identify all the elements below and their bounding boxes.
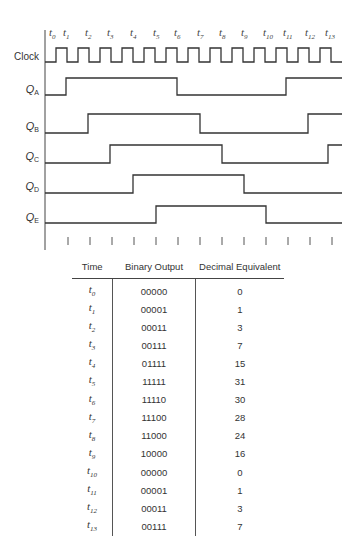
- time-label: t2: [85, 26, 92, 41]
- signal-label-clock: Clock: [14, 51, 40, 62]
- time-label: t8: [219, 26, 226, 41]
- table-row: t51111131: [72, 373, 284, 391]
- time-label: t5: [153, 26, 160, 41]
- waveform-qb: [45, 114, 342, 133]
- time-label: t13: [325, 26, 336, 41]
- time-label: t7: [197, 26, 204, 41]
- time-index: 8: [92, 435, 96, 443]
- binary-cell: 00000: [113, 279, 196, 302]
- table-row: t3001117: [72, 337, 284, 355]
- time-index: 5: [92, 381, 96, 389]
- time-index: 9: [92, 453, 96, 461]
- signal-labels: ClockQAQBQCQDQE: [14, 51, 40, 224]
- binary-cell: 00011: [113, 319, 196, 337]
- decimal-cell: 0: [196, 279, 285, 302]
- table-row: t1000011: [72, 301, 284, 319]
- binary-cell: 00111: [113, 518, 196, 536]
- time-index: 7: [92, 417, 96, 425]
- time-cell: t0: [72, 279, 113, 302]
- waveform-clock: [45, 48, 342, 62]
- binary-cell: 01111: [113, 355, 196, 373]
- decimal-cell: 3: [196, 500, 285, 518]
- table-row: t91000016: [72, 446, 284, 464]
- table-row: t12000113: [72, 500, 284, 518]
- table-row: t71110028: [72, 410, 284, 428]
- table-row: t61111030: [72, 392, 284, 410]
- binary-cell: 00011: [113, 500, 196, 518]
- time-index: 3: [92, 344, 96, 352]
- decimal-cell: 31: [196, 373, 285, 391]
- time-labels: t0t1t2t3t4t5t6t7t8t9t10t11t12t13: [49, 26, 336, 41]
- decimal-cell: 0: [196, 464, 285, 482]
- time-cell: t10: [72, 464, 113, 482]
- time-label: t9: [241, 26, 248, 41]
- table-row: t10000000: [72, 464, 284, 482]
- table-row: t11000011: [72, 482, 284, 500]
- time-label: t1: [63, 26, 70, 41]
- timing-diagram: t0t1t2t3t4t5t6t7t8t9t10t11t12t13 ClockQA…: [0, 0, 357, 258]
- binary-cell: 11111: [113, 373, 196, 391]
- time-label: t0: [49, 26, 56, 41]
- time-cell: t2: [72, 319, 113, 337]
- time-index: 10: [90, 471, 97, 479]
- time-cell: t5: [72, 373, 113, 391]
- time-label: t3: [107, 26, 114, 41]
- time-ticks: [68, 237, 332, 245]
- time-label: t10: [263, 26, 274, 41]
- binary-cell: 00001: [113, 482, 196, 500]
- binary-cell: 11000: [113, 428, 196, 446]
- table-row: t2000113: [72, 319, 284, 337]
- time-label: t11: [283, 26, 293, 41]
- waveform-qd: [45, 175, 342, 193]
- time-cell: t6: [72, 392, 113, 410]
- binary-cell: 00001: [113, 301, 196, 319]
- signal-label-qb: QB: [26, 120, 40, 133]
- time-label: t12: [305, 26, 316, 41]
- time-cell: t3: [72, 337, 113, 355]
- decimal-cell: 28: [196, 410, 285, 428]
- header-decimal-equivalent: Decimal Equivalent: [196, 258, 285, 279]
- time-index: 1: [92, 308, 96, 316]
- waveform-qe: [45, 206, 342, 223]
- state-table: Time Binary Output Decimal Equivalent t0…: [72, 258, 284, 536]
- table-row: t40111115: [72, 355, 284, 373]
- waveform-qc: [45, 145, 342, 163]
- time-cell: t8: [72, 428, 113, 446]
- time-label: t6: [174, 26, 181, 41]
- time-cell: t7: [72, 410, 113, 428]
- time-index: 4: [92, 363, 96, 371]
- time-index: 6: [92, 399, 96, 407]
- time-index: 0: [92, 290, 96, 298]
- binary-cell: 10000: [113, 446, 196, 464]
- decimal-cell: 3: [196, 319, 285, 337]
- time-cell: t9: [72, 446, 113, 464]
- waveforms: [45, 48, 342, 223]
- time-index: 11: [90, 489, 96, 497]
- decimal-cell: 15: [196, 355, 285, 373]
- time-cell: t11: [72, 482, 113, 500]
- time-cell: t1: [72, 301, 113, 319]
- time-cell: t12: [72, 500, 113, 518]
- signal-label-qd: QD: [25, 180, 39, 193]
- decimal-cell: 1: [196, 301, 285, 319]
- time-cell: t13: [72, 518, 113, 536]
- decimal-cell: 24: [196, 428, 285, 446]
- time-cell: t4: [72, 355, 113, 373]
- decimal-cell: 7: [196, 518, 285, 536]
- time-index: 2: [92, 326, 96, 334]
- header-binary-output: Binary Output: [113, 258, 196, 279]
- table-row: t0000000: [72, 279, 284, 302]
- decimal-cell: 30: [196, 392, 285, 410]
- signal-label-qa: QA: [26, 83, 40, 96]
- binary-cell: 11110: [113, 392, 196, 410]
- binary-cell: 00000: [113, 464, 196, 482]
- binary-cell: 11100: [113, 410, 196, 428]
- header-time: Time: [72, 258, 113, 279]
- time-label: t4: [130, 26, 137, 41]
- signal-label-qc: QC: [25, 150, 39, 163]
- decimal-cell: 16: [196, 446, 285, 464]
- binary-cell: 00111: [113, 337, 196, 355]
- table-header-row: Time Binary Output Decimal Equivalent: [72, 258, 284, 279]
- decimal-cell: 1: [196, 482, 285, 500]
- table-row: t81100024: [72, 428, 284, 446]
